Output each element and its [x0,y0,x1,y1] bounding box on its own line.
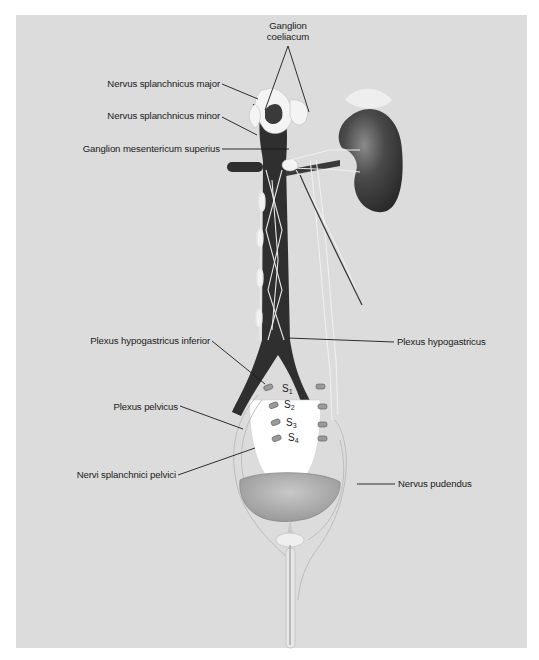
label-splanchnicus-minor: Nervus splanchnicus minor [60,110,220,121]
aorta [227,104,340,416]
label-hypogastricus: Plexus hypogastricus [397,336,486,347]
sacral-number: 3 [293,422,297,429]
label-pelvicus: Plexus pelvicus [40,401,178,412]
sacral-letter: S [284,399,291,410]
sacral-number: 1 [289,388,293,395]
label-line-1: Ganglion [262,20,314,31]
sacral-letter: S [282,383,289,394]
sacral-label-s2: S2 [284,400,295,413]
label-splanchnicus-major: Nervus splanchnicus major [60,78,220,89]
label-splanchnici-pelvici: Nervi splanchnici pelvici [20,469,176,480]
label-line-2: coeliacum [262,31,314,42]
sacral-label-s1: S1 [282,384,293,397]
sacral-letter: S [286,417,293,428]
anatomy-illustration [0,0,539,660]
sacral-label-s4: S4 [288,433,299,446]
bladder [240,473,340,522]
label-mesentericum-superius: Ganglion mesentericum superius [40,143,220,154]
sacral-label-s3: S3 [286,418,297,431]
sacral-letter: S [288,432,295,443]
label-hypogastricus-inferior: Plexus hypogastricus inferior [20,335,210,346]
label-ganglion-coeliacum: Ganglion coeliacum [262,20,314,42]
label-pudendus: Nervus pudendus [398,478,472,489]
sacral-number: 4 [295,437,299,444]
sacral-number: 2 [291,404,295,411]
